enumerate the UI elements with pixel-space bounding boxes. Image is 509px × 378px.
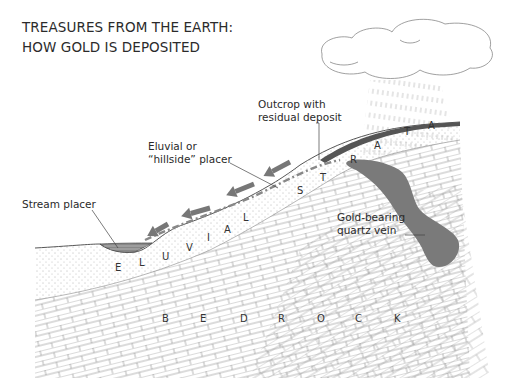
strata-letter: L (139, 257, 145, 268)
vein-label-line-2: quartz vein (337, 224, 405, 237)
strata-letter: A (224, 224, 231, 235)
cloud-icon (322, 19, 493, 78)
stream-placer-label: Stream placer (22, 198, 96, 211)
bedrock-letter: C (355, 313, 362, 324)
bedrock-letter: E (200, 313, 206, 324)
strata-letter: A (428, 120, 435, 131)
title-line-1: TREASURES FROM THE EARTH: (22, 17, 233, 37)
gold-vein-label: Gold-bearing quartz vein (337, 211, 405, 237)
strata-letter: A (374, 140, 381, 151)
strata-letter: V (186, 242, 193, 253)
bedrock-letter: R (278, 313, 285, 324)
title-line-2: HOW GOLD IS DEPOSITED (22, 37, 233, 57)
bedrock-letter: D (240, 313, 248, 324)
strata-letter: I (207, 232, 210, 243)
eluvial-label-line-2: “hillside” placer (148, 153, 232, 166)
strata-letter: T (404, 126, 410, 137)
strata-letter: R (350, 154, 357, 165)
strata-letter: U (162, 251, 169, 262)
eluvial-placer-label: Eluvial or “hillside” placer (148, 140, 232, 166)
strata-letter: S (297, 185, 303, 196)
stream-placer-leader-line (92, 210, 118, 248)
bedrock-letter: O (317, 313, 325, 324)
strata-letter: L (243, 212, 249, 223)
vein-label-line-1: Gold-bearing (337, 211, 405, 224)
bedrock-letter: K (394, 313, 401, 324)
bedrock-letter: B (162, 313, 169, 324)
strata-letter: T (320, 172, 326, 183)
outcrop-label-line-1: Outcrop with (258, 98, 342, 111)
outcrop-label-line-2: residual deposit (258, 111, 342, 124)
diagram-title: TREASURES FROM THE EARTH: HOW GOLD IS DE… (22, 17, 233, 57)
outcrop-label: Outcrop with residual deposit (258, 98, 342, 124)
eluvial-label-line-1: Eluvial or (148, 140, 232, 153)
strata-letter: E (115, 262, 121, 273)
